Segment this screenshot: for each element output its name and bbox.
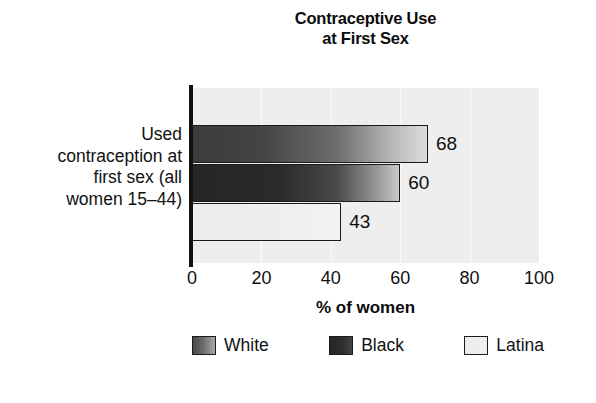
chart-title-line-1: Contraceptive Use [186,8,545,28]
x-tick-label: 60 [390,268,410,288]
legend-label-latina: Latina [496,336,544,355]
y-axis-line [189,85,193,267]
value-label-white: 68 [436,134,457,153]
bar-black[interactable] [192,164,400,202]
value-label-latina: 43 [349,212,370,231]
legend-swatch-black-icon [329,336,353,355]
gridline [470,88,471,263]
x-tick-label: 40 [321,268,341,288]
bar-latina[interactable] [192,203,341,241]
x-tick-label: 100 [524,268,554,288]
plot-area [192,88,539,263]
value-label-black: 60 [408,173,429,192]
x-tick-label: 80 [460,268,480,288]
legend-item-black[interactable]: Black [329,336,404,355]
chart-title-line-2: at First Sex [186,28,545,48]
gridline [400,88,401,263]
category-label-line-3: first sex (all [10,167,182,189]
category-label-line-4: women 15–44) [10,189,182,211]
bar-white[interactable] [192,125,428,163]
legend-item-latina[interactable]: Latina [464,336,544,355]
chart-figure: Contraceptive Use at First Sex Used cont… [0,0,596,403]
category-label: Used contraception at first sex (all wom… [10,124,182,210]
chart-title: Contraceptive Use at First Sex [186,8,545,48]
legend-item-white[interactable]: White [192,336,269,355]
legend-label-white: White [224,336,269,355]
category-label-line-2: contraception at [10,146,182,168]
legend-swatch-latina-icon [464,336,488,355]
legend-label-black: Black [361,336,404,355]
x-tick-label: 20 [251,268,271,288]
page-caption [0,393,596,403]
x-axis-title: % of women [192,298,539,318]
chart-legend: White Black Latina [192,336,544,355]
category-label-line-1: Used [10,124,182,146]
legend-swatch-white-icon [192,336,216,355]
x-tick-label: 0 [187,268,197,288]
